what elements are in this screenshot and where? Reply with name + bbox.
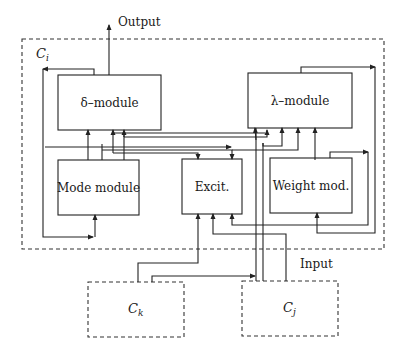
- container-ck-label: Ck: [128, 301, 143, 318]
- container-cj-label: Cj: [283, 300, 296, 317]
- lambda-module-label: λ–module: [271, 94, 330, 108]
- mode-module-label: Mode module: [57, 181, 140, 195]
- weight-module: Weight mod.: [270, 158, 352, 213]
- container-ci: [22, 39, 384, 249]
- lambda-module: λ–module: [248, 73, 352, 128]
- excit-module-label: Excit.: [195, 180, 230, 194]
- delta-module-label: δ–module: [80, 96, 138, 110]
- excit-module: Excit.: [182, 159, 242, 214]
- architecture-diagram: Ci Output δ–module λ–module Mode module …: [0, 0, 409, 358]
- output-label: Output: [118, 15, 161, 29]
- container-ci-label: Ci: [36, 46, 49, 63]
- mode-module: Mode module: [57, 160, 140, 215]
- delta-module: δ–module: [58, 75, 161, 130]
- weight-module-label: Weight mod.: [273, 179, 349, 193]
- input-label: Input: [300, 257, 333, 271]
